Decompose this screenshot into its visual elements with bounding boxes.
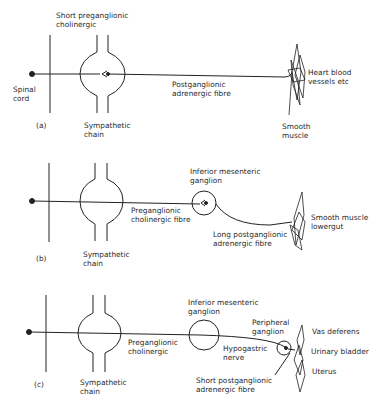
label-inferior-mesenteric-b: Inferior mesenteric ganglion: [190, 168, 260, 185]
label-short-postganglionic-c: Short postganglionic adrenergic fibre: [196, 377, 272, 394]
label-sympathetic-chain-b: Sympathetic chain: [83, 251, 130, 268]
label-preganglionic-b: Preganglionic cholinergic fibre: [131, 207, 190, 224]
label-short-preganglionic: Short preganglionic cholinergic: [56, 12, 128, 29]
label-inferior-mesenteric-c: Inferior mesenteric ganglion: [188, 299, 258, 316]
label-postganglionic-a: Postganglionic adrenergic fibre: [172, 81, 231, 98]
label-uterus: Uterus: [312, 368, 336, 377]
label-peripheral-ganglion: Peripheral ganglion: [252, 319, 289, 336]
label-spinal-cord: Spinal cord: [13, 86, 36, 103]
label-sympathetic-chain-a: Sympathetic chain: [84, 122, 131, 139]
label-hypogastric-nerve: Hypogastric nerve: [223, 345, 267, 362]
panel-tag-b: (b): [36, 255, 46, 264]
panel-tag-a: (a): [36, 122, 46, 131]
postganglionic-fibre-a: [108, 73, 292, 77]
label-heart-blood-vessels: Heart blood vessels etc: [308, 69, 351, 86]
pointer-short-postganglionic: [275, 353, 290, 375]
label-smooth-muscle-a: Smooth muscle: [282, 123, 311, 140]
label-preganglionic-c: Preganglionic cholinergic: [128, 339, 178, 356]
long-postganglionic-fibre-b: [216, 204, 292, 225]
panel-a-drawing: [30, 35, 306, 115]
smooth-muscle-cells-a: [288, 44, 305, 115]
preganglionic-fibre-b: [32, 201, 200, 204]
target-organ-cells-c: [294, 325, 305, 392]
label-sympathetic-chain-c: Sympathetic chain: [80, 379, 127, 396]
label-smooth-muscle-lowergut: Smooth muscle lowergut: [311, 214, 368, 231]
smooth-muscle-cells-b: [290, 192, 305, 250]
label-vas-deferens: Vas deferens: [312, 328, 360, 337]
label-urinary-bladder: Urinary bladder: [311, 348, 369, 357]
panel-tag-c: (c): [34, 381, 44, 390]
label-long-postganglionic-b: Long postganglionic adrenergic fibre: [213, 231, 287, 248]
